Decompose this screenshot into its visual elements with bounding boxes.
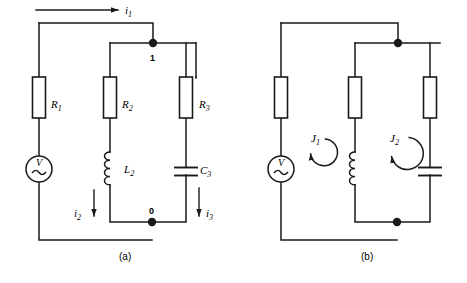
resistor-b3-symbol: [424, 77, 437, 118]
inductor-b-symbol: [349, 152, 355, 185]
node-1-dot: [149, 39, 157, 47]
resistor-R2-label: R2: [122, 99, 133, 113]
circuit-figure: R1 R2 R3 L2 C3 V 1 0 i1 i2 i3 V J1 J2 (a…: [0, 0, 467, 283]
capacitor-C3-label: C3: [200, 165, 211, 179]
caption-b: (b): [361, 252, 373, 262]
mesh-current-J2-label: J2: [390, 133, 399, 147]
resistor-R3-label: R3: [199, 99, 210, 113]
circuit-b-wires: [281, 23, 440, 240]
node-1-label: 1: [150, 54, 155, 63]
node-b-top-dot: [394, 39, 402, 47]
current-i3-label: i3: [206, 208, 213, 222]
current-i2-label: i2: [74, 208, 81, 222]
voltage-source-b-label: V: [278, 158, 284, 168]
node-0-dot: [148, 218, 156, 226]
resistor-R1-symbol: [33, 77, 46, 118]
node-0-label: 0: [149, 207, 154, 216]
caption-a: (a): [119, 252, 131, 262]
resistor-R3-symbol: [180, 77, 193, 118]
current-i1-label: i1: [125, 5, 132, 19]
resistor-R2-symbol: [104, 77, 117, 118]
mesh-current-J1-label: J1: [311, 133, 320, 147]
node-b-bottom-dot: [393, 218, 401, 226]
inductor-L2-symbol: [104, 152, 110, 185]
voltage-source-a-label: V: [36, 158, 42, 168]
inductor-L2-label: L2: [124, 164, 134, 178]
resistor-R1-label: R1: [51, 99, 62, 113]
resistor-b2-symbol: [349, 77, 362, 118]
circuit-a-wires: [39, 23, 196, 240]
resistor-b1-symbol: [275, 77, 288, 118]
